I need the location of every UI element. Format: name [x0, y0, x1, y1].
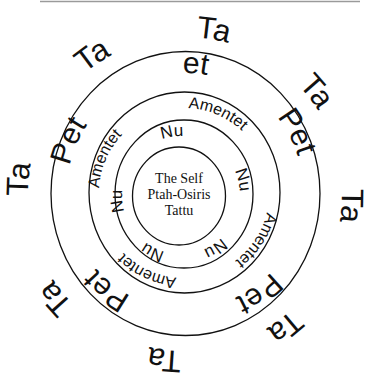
ring-label-ta: Ta [144, 340, 183, 379]
ring-label-ta: Ta [68, 30, 116, 78]
ring-label-amentet: Amentet [85, 125, 125, 189]
ring-label-ta: Ta [261, 304, 310, 353]
center-line-the-self: The Self [155, 171, 203, 186]
ring-label-amentet: Amentet [188, 94, 252, 133]
ring-label-pet: Pet [0, 0, 212, 81]
ring-label-ta: Ta [30, 275, 79, 324]
center-label: The Self Ptah-Osiris Tattu [148, 171, 211, 218]
ring-label-pet: Pet [43, 110, 92, 168]
ring-label-nu: Nu [107, 190, 128, 215]
ring-label-ta: Ta [0, 159, 38, 197]
ring-label-nu: Nu [137, 239, 166, 266]
center-line-tattu: Tattu [165, 203, 194, 218]
concentric-circle-diagram: The Self Ptah-Osiris Tattu NuNuNuNuNuAme… [0, 0, 370, 386]
ring-label-ta: Ta [195, 9, 235, 49]
center-line-ptah-osiris: Ptah-Osiris [148, 187, 211, 202]
ring-label-nu: Nu [202, 235, 231, 263]
ring-label-amentet: Amentet [233, 211, 281, 272]
ring-label-nu: Nu [158, 121, 183, 143]
ring-label-ta: Ta [333, 189, 370, 226]
